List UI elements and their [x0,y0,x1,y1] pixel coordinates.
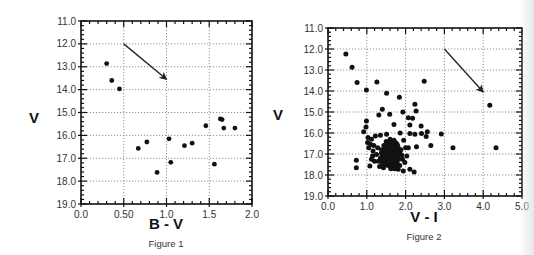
y-tick-label: 14.0 [57,84,77,95]
x-tick-label: 0.0 [321,201,335,212]
dense-point-cluster [379,151,393,165]
figure-panel: 0.00.501.01.52.011.012.013.014.015.016.0… [0,0,534,255]
data-point [406,115,411,120]
data-point [233,126,238,131]
data-point [364,87,369,92]
data-point [401,169,406,174]
y-tick-label: 16.0 [304,128,324,139]
data-point [450,145,455,150]
data-point [384,91,389,96]
figure-caption: Figure 2 [407,231,442,242]
data-point [350,65,355,70]
data-point [439,132,444,137]
data-point [419,124,424,129]
data-point [387,112,392,117]
data-point [354,158,359,163]
y-tick-label: 16.0 [57,130,77,141]
data-point [414,108,419,113]
y-tick-label: 19.0 [57,199,77,210]
data-point [136,146,141,151]
y-tick-label: 18.0 [57,176,77,187]
scatter-plots: 0.00.501.01.52.011.012.013.014.015.016.0… [0,0,534,255]
x-tick-label: 3.0 [437,201,451,212]
x-tick-label: 1.0 [360,201,374,212]
data-point [104,61,109,66]
y-tick-label: 13.0 [57,61,77,72]
y-tick-label: 15.0 [57,107,77,118]
data-point [376,112,381,117]
y-tick-label: 11.0 [57,16,76,27]
data-point [404,154,409,159]
data-point [367,163,372,168]
data-point [414,144,419,149]
data-point [412,132,417,137]
reddening-arrow [124,44,167,79]
x-tick-label: 0.50 [114,209,134,220]
x-tick-label: 4.0 [476,201,490,212]
y-tick-label: 19.0 [304,191,324,202]
x-tick-label: 2.0 [245,209,259,220]
data-point [167,136,172,141]
data-point [212,162,217,167]
y-tick-label: 15.0 [304,107,324,118]
data-point [425,129,430,134]
data-point [424,134,429,139]
data-point [397,163,402,168]
data-point [168,160,173,165]
data-point [400,157,405,162]
data-point [374,79,379,84]
reddening-arrow [444,49,483,92]
data-point [155,170,160,175]
x-axis-label: B - V [149,215,183,232]
figure-2-cmd-v-i: 0.01.02.03.04.05.011.012.013.014.015.016… [273,23,529,243]
data-point [494,145,499,150]
y-tick-label: 11.0 [304,23,323,34]
data-point [361,129,366,134]
data-point [380,107,385,112]
data-point [401,138,406,143]
data-point [144,140,149,145]
data-point [190,141,195,146]
y-tick-label: 17.0 [304,149,324,160]
data-point [354,165,359,170]
data-point [403,145,408,150]
data-point [372,159,377,164]
data-point [391,122,396,127]
data-point [203,123,208,128]
x-axis-label: V - I [410,208,438,225]
y-axis-label: V [273,106,283,123]
data-point [384,132,389,137]
data-point [398,131,403,136]
data-point [364,124,369,129]
figure-1-cmd-b-v: 0.00.501.01.52.011.012.013.014.015.016.0… [29,16,259,250]
data-point [221,126,226,131]
data-point [378,133,383,138]
data-point [412,170,417,175]
data-point [369,137,374,142]
x-tick-label: 0.0 [74,209,88,220]
data-point [397,95,402,100]
data-point [109,78,114,83]
data-point [407,167,412,172]
data-point [400,110,405,115]
data-point [373,133,378,138]
data-point [355,80,360,85]
data-point [381,165,386,170]
data-point [343,52,348,57]
y-tick-label: 12.0 [57,38,77,49]
y-tick-label: 18.0 [304,170,324,181]
y-tick-label: 17.0 [57,153,77,164]
data-point [117,87,122,92]
x-tick-label: 1.5 [202,209,216,220]
y-axis-label: V [29,109,39,126]
data-point [182,143,187,148]
y-tick-label: 14.0 [304,86,324,97]
figure-caption: Figure 1 [149,238,184,249]
x-tick-label: 5.0 [515,201,529,212]
data-point [487,103,492,108]
data-point [412,102,417,107]
data-point [407,131,412,136]
data-point [220,117,225,122]
y-tick-label: 13.0 [304,65,324,76]
data-point [364,119,369,124]
